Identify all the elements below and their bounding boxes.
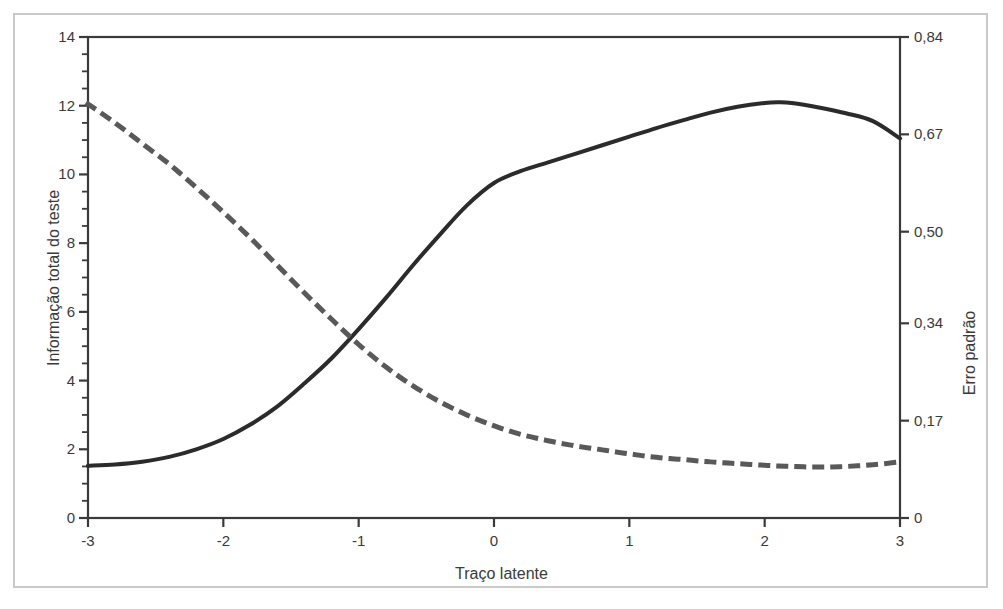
series-line-informacao [88,102,900,466]
plot-canvas [0,0,1003,609]
y-axis-left-tick-label: 6 [67,304,75,319]
y-axis-right-tick-label: 0,84 [914,29,943,44]
x-axis-tick-label: -2 [193,533,253,548]
x-axis-tick-label: 1 [599,533,659,548]
series-line-erro-padrao [88,104,900,467]
y-axis-left-tick-label: 8 [67,235,75,250]
y-axis-right-tick-label: 0,50 [914,224,943,239]
y-axis-left-tick-label: 14 [58,29,75,44]
y-axis-right-tick-label: 0 [914,510,922,525]
y-axis-left-tick-label: 10 [58,166,75,181]
y-axis-left-tick-label: 0 [67,510,75,525]
y-axis-left-title: Informação total do teste [46,189,62,365]
x-axis-tick-label: 0 [464,533,524,548]
y-axis-left-tick-label: 12 [58,98,75,113]
chart-figure: 02468101214 00,170,340,500,670,84 -3-2-1… [0,0,1003,609]
y-axis-right-title: Erro padrão [962,310,978,395]
x-axis-tick-label: -3 [58,533,118,548]
y-axis-right-tick-label: 0,34 [914,315,943,330]
x-axis-tick-label: -1 [329,533,389,548]
x-axis-tick-label: 3 [870,533,930,548]
y-axis-right-tick-label: 0,67 [914,126,943,141]
series-group [88,102,900,467]
y-axis-left-tick-label: 4 [67,373,75,388]
y-axis-left-tick-label: 2 [67,441,75,456]
x-axis-title: Traço latente [0,566,1003,582]
ticks-group [79,37,909,527]
y-axis-right-tick-label: 0,17 [914,413,943,428]
x-axis-tick-label: 2 [735,533,795,548]
